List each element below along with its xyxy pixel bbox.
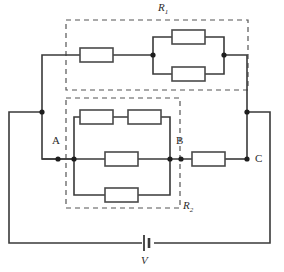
node-b-dot [178,156,183,161]
r1-group-label-sub: 1 [165,8,169,16]
bc-resistor [192,152,225,166]
circuit-schematic-svg [0,0,284,272]
node-a-dot [55,156,60,161]
r1-left-feed-wire [42,55,80,112]
outer-left-wire [9,112,142,243]
r1-right-exit-wire [224,55,247,112]
battery-symbol [144,235,149,251]
r2-right-rail-dot [167,156,172,161]
node-c-dot [244,156,249,161]
node-left-top-dot [39,109,44,114]
battery-label-v: V [141,255,148,266]
outer-right-wire [154,112,270,243]
r2-group-label: R2 [183,200,193,214]
r2-top-right-resistor [128,110,161,124]
r1-series-resistor [80,48,113,62]
r1-parallel-right-node-dot [221,52,226,57]
node-label-a: A [52,135,60,146]
circuit-diagram: R1 R2 A B C V [0,0,284,272]
r2-middle-resistor [105,152,138,166]
r2-left-rail-dot [71,156,76,161]
r1-parallel-bottom-resistor [172,67,205,81]
r2-bottom-resistor [105,188,138,202]
r2-top-left-resistor [80,110,113,124]
r2-group-label-text: R [183,199,190,211]
node-right-top-dot [244,109,249,114]
node-label-c: C [255,153,262,164]
r1-group-label-text: R [158,1,165,13]
r1-parallel-top-resistor [172,30,205,44]
r2-group-label-sub: 2 [190,206,194,214]
r1-group-label: R1 [158,2,168,16]
node-label-b: B [176,135,183,146]
r1-parallel-left-node-dot [150,52,155,57]
